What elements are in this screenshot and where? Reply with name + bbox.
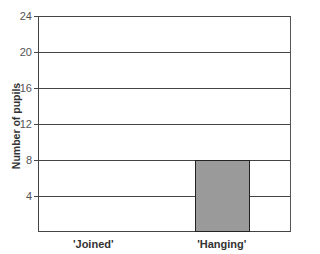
y-tick xyxy=(34,124,39,125)
gridline xyxy=(39,124,290,125)
y-tick-label: 20 xyxy=(20,46,32,58)
gridline xyxy=(39,160,290,161)
x-tick-label: 'Joined' xyxy=(73,238,114,250)
x-tick-label: 'Hanging' xyxy=(197,238,246,250)
gridline xyxy=(39,52,290,53)
bar xyxy=(195,160,250,232)
y-tick-label: 4 xyxy=(26,190,32,202)
plot-area xyxy=(38,16,291,232)
y-tick-label: 8 xyxy=(26,154,32,166)
y-tick-label: 12 xyxy=(20,118,32,130)
gridline xyxy=(39,196,290,197)
y-tick xyxy=(34,160,39,161)
gridline xyxy=(39,16,290,17)
y-tick xyxy=(34,88,39,89)
y-tick-label: 16 xyxy=(20,82,32,94)
y-tick xyxy=(34,196,39,197)
y-tick xyxy=(34,52,39,53)
y-tick xyxy=(34,16,39,17)
gridline xyxy=(39,88,290,89)
y-tick-label: 24 xyxy=(20,10,32,22)
